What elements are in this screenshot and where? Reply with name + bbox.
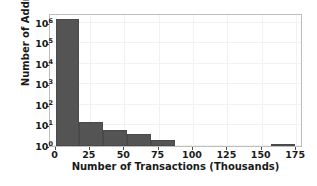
y-tick-label: 101 xyxy=(35,121,53,131)
histogram-bar xyxy=(271,144,295,146)
y-tick-label: 102 xyxy=(35,101,53,111)
histogram-bar xyxy=(79,122,103,146)
histogram-bar xyxy=(103,130,127,146)
x-tick-label: 175 xyxy=(275,149,315,160)
y-tick-label: 104 xyxy=(35,60,53,70)
y-tick-label: 103 xyxy=(35,80,53,90)
histogram-bar xyxy=(127,134,151,146)
y-tick-label: 100 xyxy=(35,142,53,152)
plot-area xyxy=(49,14,302,147)
histogram-bar xyxy=(56,19,80,146)
histogram-bar xyxy=(151,140,175,146)
histogram-figure: 0255075100125150175 10010110210310410510… xyxy=(0,0,317,186)
y-tick-label: 106 xyxy=(35,19,53,29)
x-axis-label: Number of Transactions (Thousands) xyxy=(49,161,302,172)
bar-series xyxy=(50,15,301,146)
y-axis-label: Number of Addresses xyxy=(20,0,31,106)
y-tick-label: 105 xyxy=(35,39,53,49)
